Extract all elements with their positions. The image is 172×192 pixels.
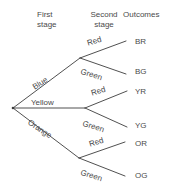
tree-diagram: First stage Second stage Outcomes Blue Y… [0,0,172,192]
header-second-stage-line1: Second [85,10,123,20]
header-second-stage-line2: stage [85,20,123,30]
outcome-label-yg: YG [135,121,147,130]
branch-label-yellow: Yellow [31,98,54,107]
header-first-stage-line1: First [37,10,57,20]
outcome-label-yr: YR [135,87,146,96]
header-first-stage: First stage [37,10,57,30]
outcome-label-og: OG [135,171,147,180]
node-root [12,107,15,110]
header-second-stage: Second stage [85,10,123,30]
outcome-label-or: OR [135,139,147,148]
outcome-label-br: BR [135,37,146,46]
header-first-stage-line2: stage [37,20,57,30]
header-outcomes: Outcomes [123,10,159,20]
outcome-label-bg: BG [135,67,147,76]
